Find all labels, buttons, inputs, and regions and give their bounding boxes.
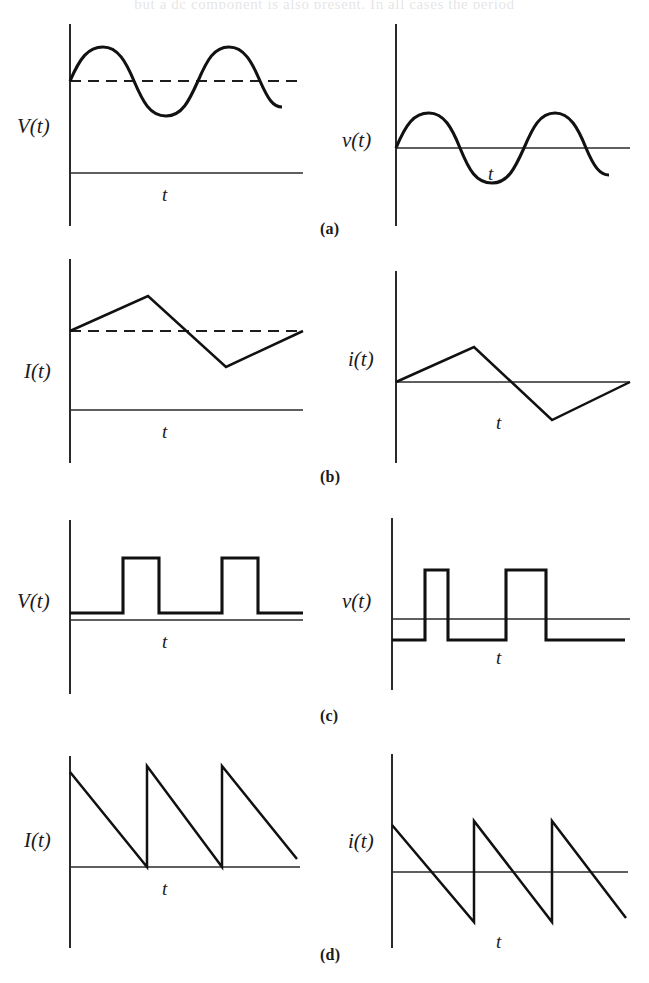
panel-row-c: V(t) t v(t) t (c) — [0, 512, 649, 727]
x-axis-label-t: t — [496, 932, 501, 951]
plot-b-right-svg — [338, 255, 638, 470]
panel-label-a: (a) — [320, 221, 339, 237]
plot-d-right: i(t) t — [338, 752, 638, 952]
plot-c-left: V(t) t — [22, 512, 312, 702]
plot-d-right-svg — [338, 752, 638, 952]
panel-row-a: V(t) t v(t) t (a) — [0, 18, 649, 243]
plot-c-right: v(t) t — [338, 512, 638, 702]
waveform-triangle-zero-mean — [396, 347, 630, 420]
y-axis-label-v: v(t) — [342, 130, 371, 151]
figure-root: but a dc component is also present. In a… — [0, 0, 649, 983]
panel-label-b: (b) — [320, 469, 340, 485]
x-axis-label-t: t — [488, 164, 493, 183]
cropped-caption-bleed: but a dc component is also present. In a… — [0, 0, 649, 9]
plot-b-left: I(t) t — [22, 255, 312, 470]
plot-a-right-svg — [338, 18, 638, 233]
y-axis-label-v: v(t) — [342, 591, 371, 612]
x-axis-label-t: t — [162, 422, 167, 441]
plot-b-right: i(t) t — [338, 255, 638, 470]
y-axis-label-I: I(t) — [24, 830, 51, 851]
plot-d-left-svg — [22, 752, 312, 952]
panel-row-b: I(t) t i(t) t (b) — [0, 255, 649, 485]
y-axis-label-V: V(t) — [17, 591, 50, 612]
waveform-pulse-unipolar — [70, 558, 303, 613]
plot-c-right-svg — [338, 512, 638, 702]
y-axis-label-i: i(t) — [348, 349, 374, 370]
waveform-sawtooth-positive — [70, 766, 297, 867]
plot-d-left: I(t) t — [22, 752, 312, 952]
plot-a-left: V(t) t — [22, 18, 312, 233]
y-axis-label-V: V(t) — [17, 116, 50, 137]
y-axis-label-i: i(t) — [348, 831, 374, 852]
panel-row-d: I(t) t i(t) t (d) — [0, 752, 649, 983]
x-axis-label-t: t — [496, 413, 501, 432]
panel-label-c: (c) — [320, 708, 338, 724]
waveform-pulse-bipolar — [392, 570, 625, 640]
y-axis-label-I: I(t) — [24, 361, 51, 382]
plot-a-right: v(t) t — [338, 18, 638, 233]
x-axis-label-t: t — [162, 185, 167, 204]
x-axis-label-t: t — [496, 648, 501, 667]
x-axis-label-t: t — [162, 879, 167, 898]
plot-c-left-svg — [22, 512, 312, 702]
x-axis-label-t: t — [162, 632, 167, 651]
panel-label-d: (d) — [320, 947, 340, 963]
